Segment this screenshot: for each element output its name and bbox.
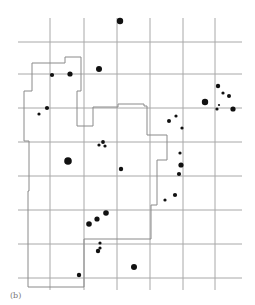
figure-caption: (b) (10, 291, 21, 300)
data-point (174, 114, 177, 117)
data-point (96, 66, 102, 72)
data-point (103, 144, 106, 147)
data-point (173, 193, 177, 197)
data-point (97, 143, 100, 146)
data-point (67, 71, 72, 76)
region-boundary (24, 57, 167, 287)
data-point (163, 198, 166, 201)
data-point (221, 91, 224, 94)
data-point (178, 162, 183, 167)
data-point (227, 94, 231, 98)
data-point (216, 84, 220, 88)
data-point (96, 249, 100, 253)
data-point (180, 126, 183, 129)
data-point (119, 167, 123, 171)
data-point (131, 264, 137, 270)
data-point (45, 106, 49, 110)
data-point (50, 73, 54, 77)
data-point (202, 99, 208, 105)
data-point (37, 112, 40, 115)
data-point (64, 157, 72, 165)
data-point (230, 106, 235, 111)
data-point (86, 221, 92, 227)
data-point (167, 119, 171, 123)
data-point (218, 104, 220, 106)
data-point (94, 216, 99, 221)
data-point (215, 107, 218, 110)
data-point (177, 172, 181, 176)
data-point (103, 210, 109, 216)
data-point (77, 273, 81, 277)
point-distribution-map (0, 0, 255, 305)
data-point (117, 18, 123, 24)
data-point (178, 151, 181, 154)
grid-lines (18, 18, 242, 290)
data-point (98, 241, 101, 244)
data-point (101, 140, 105, 144)
